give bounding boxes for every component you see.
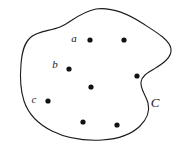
point-a bbox=[87, 37, 92, 42]
point-a-label: a bbox=[71, 33, 77, 44]
point-5 bbox=[88, 84, 93, 89]
point-b bbox=[66, 66, 71, 71]
interior-points-group bbox=[45, 37, 139, 127]
curve-label-C: C bbox=[151, 96, 160, 109]
figure-canvas bbox=[0, 0, 184, 150]
point-4 bbox=[134, 73, 139, 78]
point-c-label: c bbox=[32, 94, 37, 105]
point-8 bbox=[114, 122, 119, 127]
closed-curve-path bbox=[20, 9, 171, 141]
point-7 bbox=[80, 119, 85, 124]
point-2 bbox=[121, 37, 126, 42]
point-b-label: b bbox=[52, 59, 58, 70]
point-c bbox=[45, 98, 50, 103]
closed-curve-figure: abc C bbox=[0, 0, 184, 150]
